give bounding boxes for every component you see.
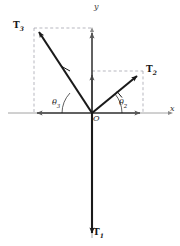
y-axis-label: y (94, 3, 99, 11)
vector-label-T2: T2 (146, 65, 157, 76)
diagram-canvas (0, 0, 180, 246)
angle-label-theta2: θ2 (119, 99, 127, 109)
force-vector-diagram: T3 T2 T1 θ3 θ2 O x y (0, 0, 180, 246)
origin-label: O (93, 115, 100, 123)
vector-T2 (92, 76, 137, 113)
vector-T3 (39, 32, 92, 113)
vector-label-T3: T3 (13, 21, 24, 32)
angle-arc-theta3 (62, 93, 70, 113)
x-axis-label: x (170, 105, 175, 113)
vector-label-T1: T1 (93, 228, 104, 239)
angle-label-theta3: θ3 (52, 99, 60, 109)
